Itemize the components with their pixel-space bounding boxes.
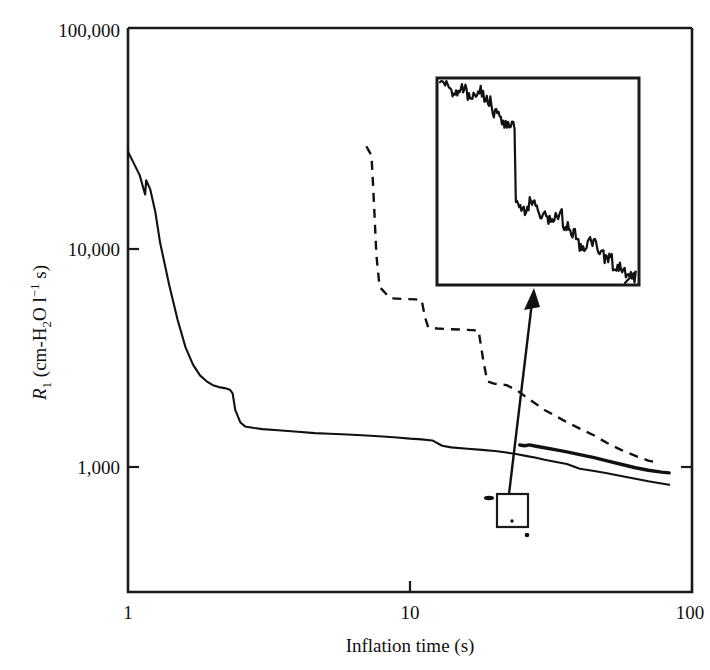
x-tick-label-100: 100 (676, 602, 705, 623)
chart-svg: 100,000 10,000 1,000 R1 (cm-H2O l−1 s) 1… (0, 0, 710, 670)
callout-arrow-shaft (509, 302, 532, 494)
y-axis-title-units-mid: O l (29, 297, 50, 321)
y-tick-label-10000: 10,000 (68, 239, 120, 260)
y-axis-title-units-open: (cm-H (29, 327, 51, 382)
x-tick-label-1: 1 (123, 602, 133, 623)
figure-root: 100,000 10,000 1,000 R1 (cm-H2O l−1 s) 1… (0, 0, 710, 670)
ink-speck-c (484, 496, 494, 500)
y-axis-title-units-close: s) (29, 265, 51, 283)
y-axis-title-units-sup: −1 (27, 283, 42, 297)
svg-text:R1 (cm-H2O l−1 s): R1 (cm-H2O l−1 s) (27, 265, 54, 401)
x-tick-label-10: 10 (401, 602, 420, 623)
y-tick-label-100000: 100,000 (58, 20, 120, 41)
y-axis-title: R1 (cm-H2O l−1 s) (27, 265, 54, 401)
ink-speck-b (510, 519, 513, 522)
y-axis-title-symbol: R (29, 388, 50, 401)
y-tick-label-1000: 1,000 (77, 457, 120, 478)
ink-speck-a (525, 533, 530, 538)
callout-arrow-head (524, 288, 540, 310)
x-axis-title: Inflation time (s) (346, 635, 475, 657)
